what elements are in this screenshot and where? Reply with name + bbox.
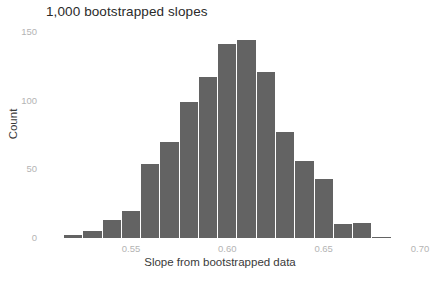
histogram-bar (257, 72, 275, 238)
histogram-bar (160, 142, 178, 238)
y-tick-label: 50 (26, 163, 37, 174)
y-tick-label: 150 (21, 26, 37, 37)
histogram-bar (141, 164, 159, 238)
histogram-bar (276, 132, 294, 238)
chart-title: 1,000 bootstrapped slopes (46, 4, 208, 19)
y-tick-label: 0 (32, 232, 37, 243)
histogram-bar (315, 179, 333, 238)
y-axis-title: Count (7, 94, 19, 154)
histogram-bar (122, 211, 140, 238)
histogram-bar (103, 220, 121, 238)
y-tick-label: 100 (21, 94, 37, 105)
x-axis: 0.550.600.650.70 (0, 243, 440, 257)
x-tick-label: 0.70 (411, 243, 430, 254)
histogram-bar (237, 40, 255, 238)
histogram-bar (295, 161, 313, 238)
plot-area (44, 22, 434, 238)
x-tick-label: 0.65 (314, 243, 333, 254)
histogram-bar (199, 77, 217, 238)
histogram-bar (353, 223, 371, 238)
x-tick-label: 0.60 (218, 243, 237, 254)
chart-screenshot: 1,000 bootstrapped slopes Count 05010015… (0, 0, 440, 285)
x-tick-label: 0.55 (122, 243, 141, 254)
histogram-bar (372, 237, 390, 239)
x-axis-title: Slope from bootstrapped data (0, 256, 440, 268)
histogram-bar (334, 224, 352, 238)
histogram-bar (218, 44, 236, 238)
histogram-bar (83, 231, 101, 238)
histogram-bar (180, 102, 198, 238)
histogram-bar (64, 235, 82, 238)
